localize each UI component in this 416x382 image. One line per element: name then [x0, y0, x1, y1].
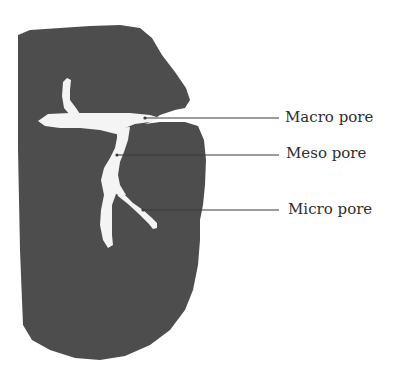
macro-pore-label: Macro pore: [285, 110, 373, 125]
pore-diagram: [0, 0, 416, 382]
micro-leader-dot: [141, 208, 144, 211]
micro-pore-label: Micro pore: [288, 202, 372, 217]
meso-leader-dot: [115, 153, 118, 156]
meso-pore-label: Meso pore: [286, 146, 366, 161]
macro-leader-dot: [143, 116, 146, 119]
